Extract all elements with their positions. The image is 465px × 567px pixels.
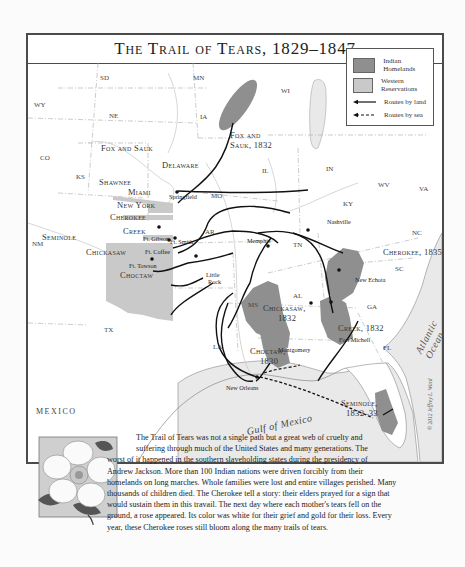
legend-label-sea-routes: Routes by sea xyxy=(384,111,423,119)
rivers xyxy=(28,73,358,378)
label-new-echota: New Echota xyxy=(355,276,385,283)
legend-label-land-routes: Routes by land xyxy=(384,98,426,106)
caption-text: The Trail of Tears was not a single path… xyxy=(126,432,444,533)
state-label-ar: AR xyxy=(205,228,215,236)
label-little-rock-1: Little xyxy=(206,271,219,278)
ft-towson-dot xyxy=(150,257,154,261)
label-shawnee: Shawnee xyxy=(99,177,131,187)
label-ft-coffee: Ft. Coffee xyxy=(145,248,170,255)
caption-line: ground, a rose appeared. Its color was w… xyxy=(107,510,444,521)
reservation-swatch xyxy=(353,78,373,93)
label-seminole-home-1: Seminole, xyxy=(341,398,378,408)
state-label-fl: FL xyxy=(383,344,391,352)
label-creek-home: Creek, 1832 xyxy=(338,323,384,333)
state-label-il: IL xyxy=(262,167,269,175)
memphis-dot xyxy=(266,244,270,248)
state-label-ga: GA xyxy=(367,303,377,311)
legend-item-land-routes: Routes by land xyxy=(353,98,426,106)
label-new-york: New York xyxy=(117,200,155,210)
label-seminole-home-2: 1832–33 xyxy=(346,408,378,418)
map-legend: Indian Homelands Western Reservations Ro… xyxy=(346,48,434,126)
label-miami: Miami xyxy=(128,187,151,197)
state-label-ne: NE xyxy=(109,112,118,120)
state-label-al: AL xyxy=(293,292,302,300)
state-label-ms: MS xyxy=(248,301,258,309)
label-montgomery: Montgomery xyxy=(278,346,310,353)
label-fort-mitchell: Fort Michell xyxy=(339,336,370,343)
caption-line: year, these Cherokee roses still bloom a… xyxy=(107,522,444,533)
state-label-sc: SC xyxy=(395,265,404,273)
fort-mitchell-dot xyxy=(329,300,333,304)
legend-label-reservations: Western Reservations xyxy=(381,77,433,93)
state-label-tn: TN xyxy=(293,241,302,249)
nashville-dot xyxy=(306,228,310,232)
caption-line: homelands on long marches. Whole familie… xyxy=(107,477,444,488)
label-memphis: Memphis xyxy=(247,237,270,244)
state-label-co: CO xyxy=(40,154,50,162)
label-fox-sauk-home-1: Fox and xyxy=(230,130,261,140)
state-label-mn: MN xyxy=(193,74,204,82)
state-label-wi: WI xyxy=(281,87,290,95)
city-markers xyxy=(150,190,341,379)
legend-item-reservations: Western Reservations xyxy=(353,77,433,93)
ft-gibson-dot xyxy=(157,225,161,229)
new-orleans-dot xyxy=(255,375,259,379)
state-label-mo: MO xyxy=(211,192,222,200)
state-label-ky: KY xyxy=(343,200,353,208)
label-ft-towson: Ft. Towson xyxy=(129,262,157,269)
state-label-wy: WY xyxy=(34,101,46,109)
label-chickasaw-home-1: Chickasaw, xyxy=(263,303,306,313)
label-fox-sauk-home-2: Sauk, 1832 xyxy=(230,140,272,150)
label-seminole-west: Seminole xyxy=(42,232,76,242)
state-label-ks: KS xyxy=(76,173,85,181)
montgomery-dot xyxy=(309,301,313,305)
label-little-rock-2: Rock xyxy=(208,278,221,285)
state-label-ia: IA xyxy=(200,113,207,121)
label-mexico: MEXICO xyxy=(36,407,77,416)
label-fox-sauk-west: Fox and Sauk xyxy=(101,143,153,153)
label-chickasaw-west: Chickasaw xyxy=(86,247,126,257)
lake-michigan xyxy=(310,80,327,149)
state-label-sd: SD xyxy=(100,74,109,82)
label-new-orleans: New Orleans xyxy=(226,384,258,391)
homeland-swatch xyxy=(353,58,375,73)
label-ft-smith: Ft. Smith xyxy=(170,238,193,245)
state-label-wv: WV xyxy=(378,181,390,189)
new-echota-dot xyxy=(337,268,341,272)
land-route-arrow-icon xyxy=(353,99,376,105)
caption-line: worst of it happened in the southern sla… xyxy=(107,454,444,465)
label-springfield: Springfield xyxy=(169,193,197,200)
label-nashville: Nashville xyxy=(327,218,351,225)
state-label-tx: TX xyxy=(104,326,113,334)
state-label-va: VA xyxy=(419,185,428,193)
label-ft-gibson: Ft. Gibson xyxy=(143,235,169,242)
map-frame: The Trail of Tears, 1829–1847 xyxy=(26,33,444,464)
sea-route-arrow-icon xyxy=(353,112,376,118)
legend-item-homelands: Indian Homelands xyxy=(353,57,433,73)
label-choctaw-home-2: 1830 xyxy=(260,356,278,366)
legend-label-homelands: Indian Homelands xyxy=(383,57,433,73)
fox-sauk-homeland xyxy=(213,75,264,136)
caption-line: suffering through much of the United Sta… xyxy=(126,443,444,454)
label-chickasaw-home-2: 1832 xyxy=(278,313,296,323)
caption-line: Andrew Jackson. More than 100 Indian nat… xyxy=(107,466,444,477)
state-label-nc: NC xyxy=(412,229,422,237)
label-choctaw-west: Choctaw xyxy=(120,270,153,280)
legend-item-sea-routes: Routes by sea xyxy=(353,111,423,119)
state-label-in: IN xyxy=(326,165,333,173)
caption-line: thousands of children died. The Cherokee… xyxy=(107,488,444,499)
state-label-la: LA xyxy=(213,343,222,351)
copyright-credit: © 2012 Jeffrey L. Ward xyxy=(427,379,433,430)
label-cherokee-home: Cherokee, 1835 xyxy=(383,247,442,257)
caption-line: would sustain them in this travail. The … xyxy=(107,499,444,510)
caption-line: The Trail of Tears was not a single path… xyxy=(126,432,444,443)
label-cherokee-west: Cherokee xyxy=(110,212,146,222)
little-rock-dot xyxy=(194,254,198,258)
label-delaware: Delaware xyxy=(162,160,199,170)
